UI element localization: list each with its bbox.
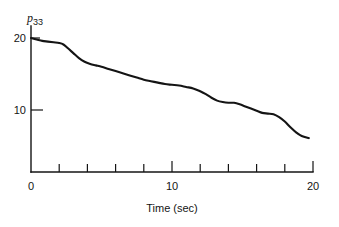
y-axis-title-subscript: 33 [33, 17, 43, 27]
x-tick-label-10: 10 [166, 180, 178, 192]
y-axis-title: p33 [26, 11, 43, 27]
y-tick-label-10: 10 [14, 104, 26, 116]
y-axis-title-base: p [26, 11, 33, 25]
x-tick-label-0: 0 [28, 180, 34, 192]
data-series-line [31, 38, 309, 138]
x-axis-title: Time (sec) [146, 202, 198, 214]
y-tick-label-20: 20 [14, 32, 26, 44]
line-chart: 20 10 0 10 20 p33 Time (sec) [0, 0, 339, 227]
x-tick-label-20: 20 [307, 180, 319, 192]
chart-figure: 20 10 0 10 20 p33 Time (sec) [0, 0, 339, 227]
y-axis-ticks [31, 38, 43, 110]
x-axis-ticks [31, 161, 313, 172]
